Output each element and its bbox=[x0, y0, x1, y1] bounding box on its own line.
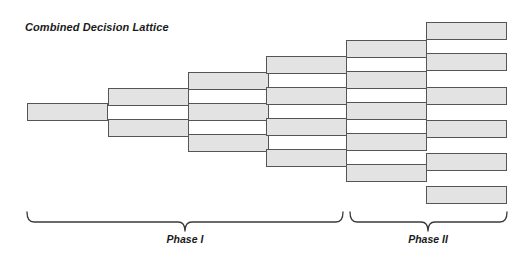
phase-braces-layer bbox=[0, 0, 522, 262]
diagram-canvas: Combined Decision Lattice Phase I Phase … bbox=[0, 0, 522, 262]
phase-brace bbox=[27, 212, 343, 231]
phase-label-1: Phase I bbox=[167, 233, 204, 245]
phase-label-2: Phase II bbox=[408, 233, 448, 245]
phase-brace bbox=[350, 212, 507, 231]
